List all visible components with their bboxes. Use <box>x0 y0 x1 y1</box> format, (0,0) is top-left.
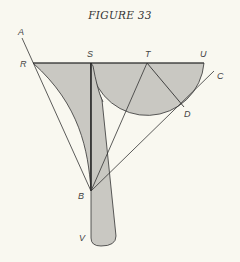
label-S: S <box>87 49 93 59</box>
label-V: V <box>79 233 86 243</box>
semicircle-region <box>91 63 204 115</box>
label-D: D <box>184 109 191 119</box>
label-C: C <box>217 71 224 81</box>
label-A: A <box>17 27 24 37</box>
geometry-diagram: A R S T U C D B V <box>0 0 240 262</box>
label-B: B <box>78 191 84 201</box>
label-T: T <box>145 49 152 59</box>
label-U: U <box>200 49 207 59</box>
label-R: R <box>20 59 27 69</box>
